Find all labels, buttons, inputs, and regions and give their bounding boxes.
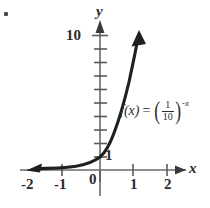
equation-lhs: f(x) [120, 103, 139, 119]
equation-equals-sign: = [142, 103, 150, 119]
y-axis-label: y [96, 4, 103, 19]
equation-close-paren: ) [175, 101, 181, 121]
x-axis [20, 166, 186, 175]
x-tick-label-1: 1 [130, 177, 138, 192]
graph-figure: x y 10 0 -2 -1 1 2 1 f(x) = ( 1 10 ) -x [0, 0, 210, 208]
y-intercept-label: 1 [105, 148, 113, 163]
x-tick-label-neg2: -2 [21, 177, 34, 192]
equation-numerator: 1 [164, 100, 171, 111]
equation-fraction: 1 10 [162, 100, 174, 122]
origin-label: 0 [89, 172, 97, 187]
function-equation-label: f(x) = ( 1 10 ) -x [120, 100, 189, 122]
x-tick-label-2: 2 [164, 177, 172, 192]
y-tick-label-10: 10 [66, 28, 81, 43]
x-tick-label-neg1: -1 [54, 177, 67, 192]
equation-exponent: -x [182, 98, 189, 108]
equation-open-paren: ( [155, 101, 161, 121]
equation-denominator: 10 [162, 112, 174, 123]
x-axis-label: x [189, 161, 197, 176]
